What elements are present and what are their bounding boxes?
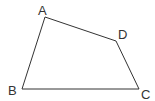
vertex-label-b: B xyxy=(8,83,17,98)
quadrilateral-diagram: A D C B xyxy=(0,0,155,101)
vertex-label-a: A xyxy=(38,3,47,18)
vertex-label-c: C xyxy=(141,87,150,101)
vertex-label-d: D xyxy=(118,27,127,42)
